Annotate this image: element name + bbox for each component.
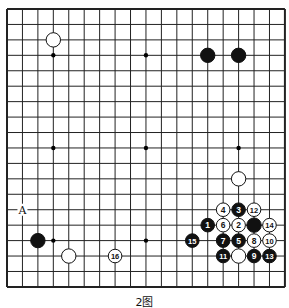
move-number: 8 [252, 236, 257, 246]
white-stone: 14 [263, 218, 277, 232]
white-stone [62, 249, 76, 263]
black-stone: 11 [216, 249, 230, 263]
move-number: 11 [219, 252, 227, 261]
move-number: 3 [236, 205, 241, 215]
diagram-caption: 2图 [0, 293, 289, 308]
move-number: 12 [250, 206, 258, 215]
star-point [144, 238, 148, 242]
move-number: 15 [188, 237, 196, 246]
white-stone [231, 249, 245, 263]
go-board: A16431216214157581011913 [0, 0, 289, 292]
move-number: 2 [236, 220, 241, 230]
move-number: 4 [221, 205, 226, 215]
black-stone: 15 [185, 234, 199, 248]
black-stone: 9 [247, 249, 261, 263]
move-number: 16 [111, 252, 119, 261]
black-stone [231, 48, 245, 62]
black-stone [201, 48, 215, 62]
white-stone [46, 33, 60, 47]
black-stone: 13 [263, 249, 277, 263]
white-stone: 16 [108, 249, 122, 263]
white-stone: 4 [216, 203, 230, 217]
move-number: 6 [221, 220, 226, 230]
white-stone: 10 [263, 234, 277, 248]
svg-text:A: A [17, 204, 27, 217]
move-number: 1 [205, 220, 210, 230]
move-number: 7 [221, 236, 226, 246]
star-point [236, 146, 240, 150]
white-stone: 12 [247, 203, 261, 217]
white-stone [231, 172, 245, 186]
point-marker: A [17, 204, 27, 217]
move-number: 10 [265, 237, 273, 246]
star-point [144, 53, 148, 57]
black-stone: 3 [232, 203, 246, 217]
move-number: 14 [265, 221, 274, 230]
star-point [144, 146, 148, 150]
white-stone: 6 [216, 218, 230, 232]
black-stone: 7 [216, 234, 230, 248]
black-stone [31, 233, 45, 247]
move-number: 9 [252, 251, 257, 261]
move-number: 13 [265, 252, 273, 261]
star-point [51, 238, 55, 242]
white-stone: 8 [247, 234, 261, 248]
black-stone: 1 [201, 218, 215, 232]
star-point [51, 53, 55, 57]
star-point [51, 146, 55, 150]
black-stone [247, 218, 261, 232]
move-number: 5 [236, 236, 241, 246]
black-stone: 5 [232, 234, 246, 248]
white-stone: 2 [232, 218, 246, 232]
